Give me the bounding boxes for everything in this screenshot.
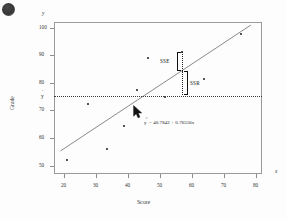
mean-label-bar: ¯	[42, 90, 44, 95]
x-axis-title: Score	[0, 199, 287, 205]
data-point	[66, 159, 68, 161]
sse-label: SSE	[160, 58, 170, 64]
figure-root: y x Grade Score 506070809010020304050607…	[0, 0, 287, 221]
plot-area: 506070809010020304050607080	[54, 22, 262, 174]
y-tick-mark	[50, 110, 54, 111]
x-tick-label: 70	[221, 183, 226, 188]
y-tick-mark	[50, 166, 54, 167]
data-point	[136, 89, 138, 91]
sse-segment	[182, 52, 183, 71]
x-tick-mark	[160, 174, 161, 178]
data-point	[240, 33, 242, 35]
regression-equation: = 40.7842 + 0.76556x	[149, 120, 194, 125]
x-tick-mark	[64, 174, 65, 178]
x-tick-mark	[256, 174, 257, 178]
data-point	[123, 125, 125, 127]
x-tick-label: 30	[93, 183, 98, 188]
x-tick-label: 40	[125, 183, 130, 188]
ssr-label: SSR	[190, 80, 200, 86]
scan-artifact-dot	[2, 3, 15, 16]
x-tick-label: 20	[61, 183, 66, 188]
y-axis-symbol: y	[42, 10, 44, 16]
x-tick-label: 80	[253, 183, 258, 188]
ssr-segment	[182, 71, 183, 95]
data-point	[87, 103, 89, 105]
x-axis-symbol: x	[275, 168, 277, 174]
data-point	[106, 148, 108, 150]
y-axis-title: Grade	[9, 96, 15, 110]
y-tick-mark	[50, 138, 54, 139]
x-tick-mark	[192, 174, 193, 178]
mouse-pointer-icon	[133, 105, 144, 119]
data-point	[203, 78, 205, 80]
x-tick-mark	[224, 174, 225, 178]
y-tick-label: 90	[39, 53, 45, 58]
x-tick-label: 60	[189, 183, 194, 188]
x-tick-mark	[96, 174, 97, 178]
y-tick-label: 60	[39, 135, 45, 140]
sse-brace	[177, 52, 181, 71]
x-tick-mark	[128, 174, 129, 178]
ssr-brace	[184, 71, 188, 95]
y-tick-label: 70	[39, 108, 45, 113]
y-tick-label: 50	[39, 163, 45, 168]
regression-line	[54, 22, 262, 174]
equation-lhs: y	[144, 120, 147, 125]
y-tick-mark	[50, 83, 54, 84]
x-tick-label: 50	[157, 183, 162, 188]
y-tick-mark	[50, 28, 54, 29]
data-point	[147, 57, 149, 59]
y-tick-mark	[50, 55, 54, 56]
y-tick-label: 80	[39, 80, 45, 85]
y-tick-label: 100	[39, 25, 45, 30]
mean-reference-line	[54, 96, 262, 97]
